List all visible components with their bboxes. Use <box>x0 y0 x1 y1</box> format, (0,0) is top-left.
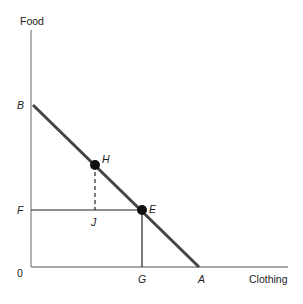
label-A: A <box>197 273 205 285</box>
budget-line <box>33 105 199 267</box>
label-F: F <box>17 204 24 216</box>
label-G: G <box>138 273 146 285</box>
label-E: E <box>149 203 157 215</box>
y-axis-label: Food <box>20 15 44 27</box>
x-axis-label: Clothing <box>249 273 288 285</box>
point-H <box>90 160 100 170</box>
origin-label: 0 <box>17 267 23 279</box>
label-H: H <box>102 153 110 165</box>
label-J: J <box>90 216 97 228</box>
point-E <box>137 205 147 215</box>
label-B: B <box>17 99 24 111</box>
budget-diagram: Food Clothing 0 B A H E F G J <box>0 0 303 304</box>
